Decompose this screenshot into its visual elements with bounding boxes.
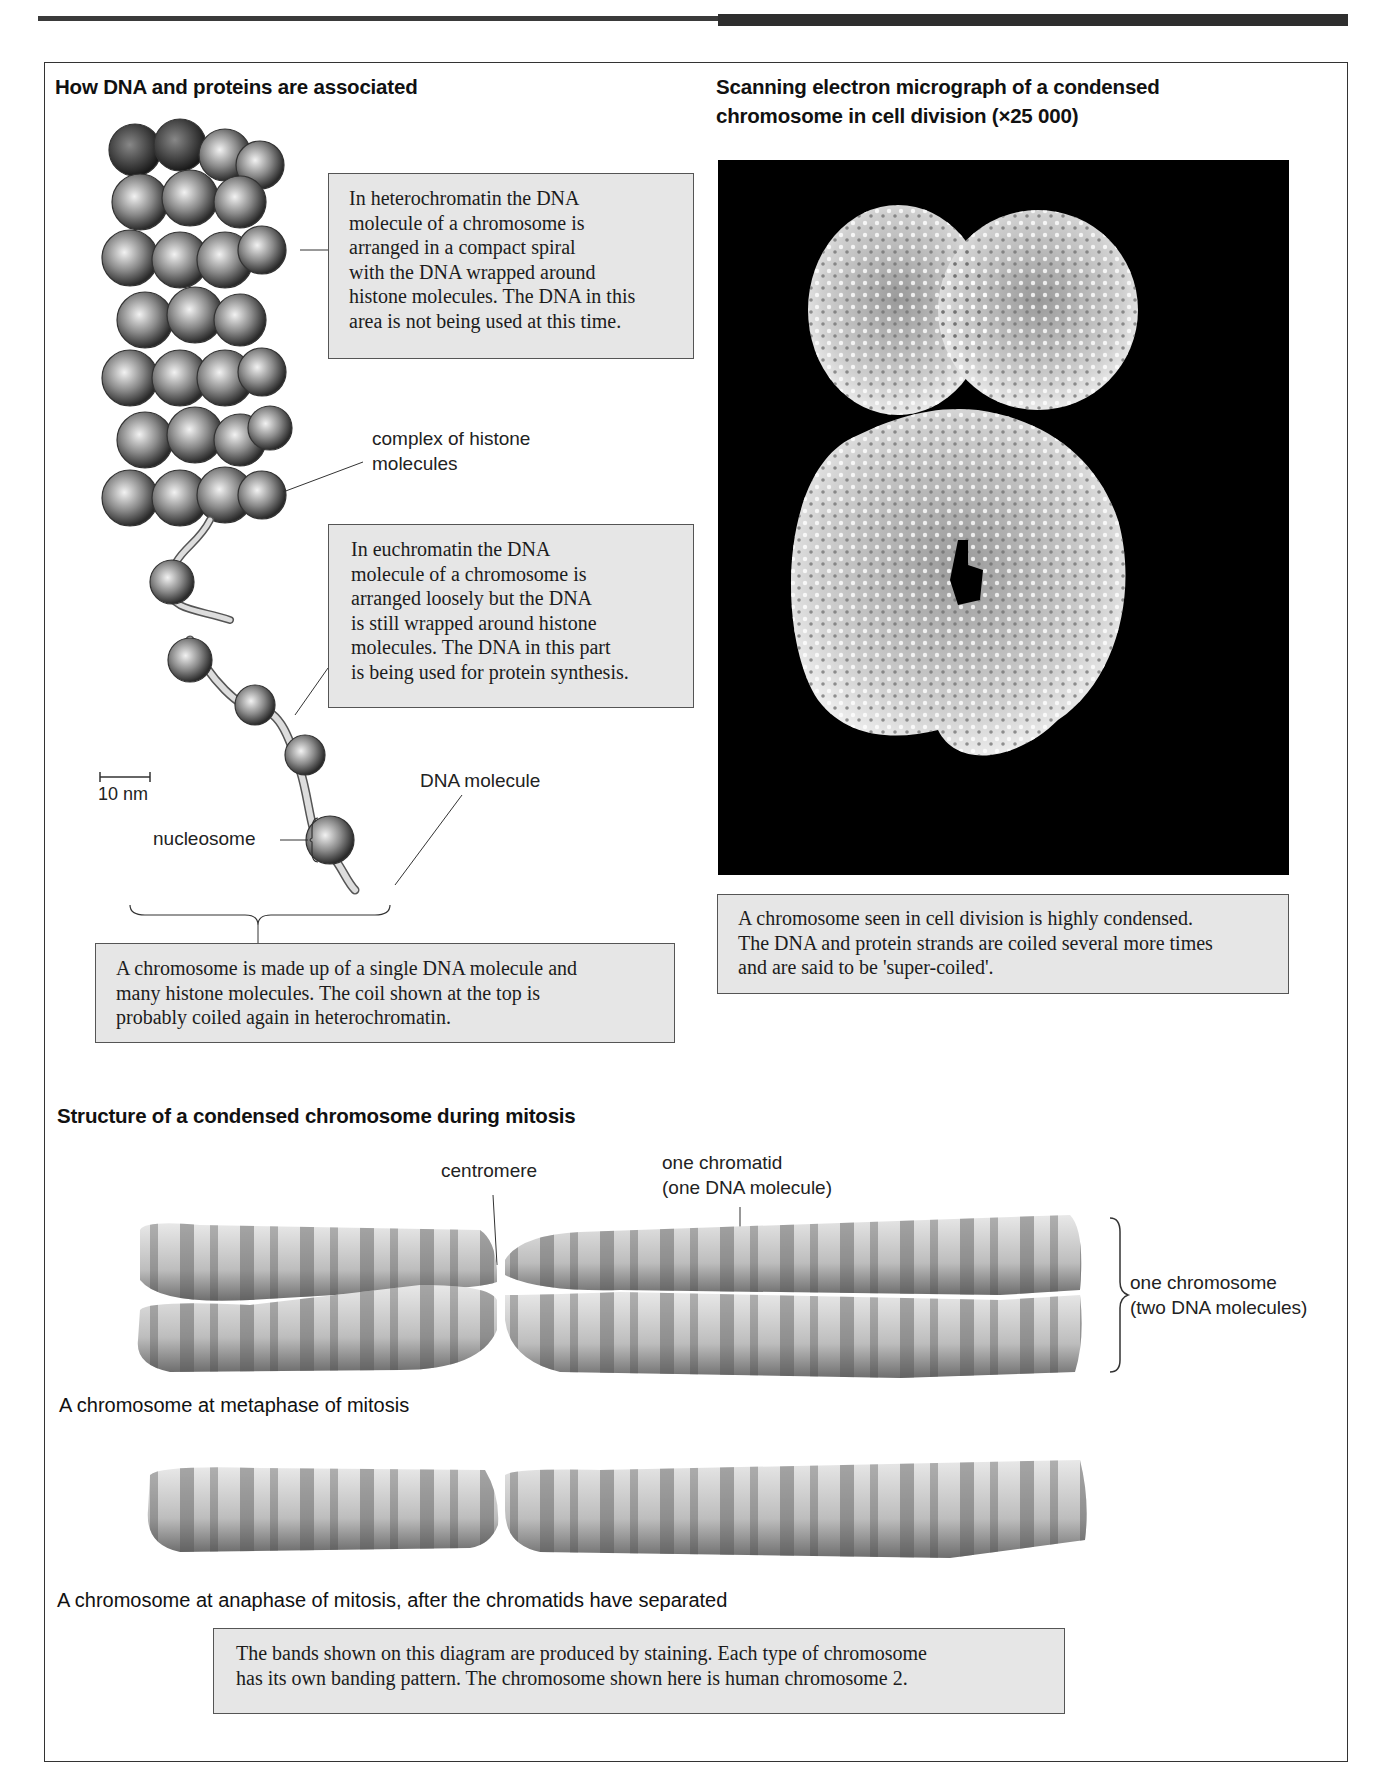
banding-info-text: The bands shown on this diagram are prod…	[236, 1641, 1042, 1690]
metaphase-chromosome-illustration	[0, 0, 1389, 1779]
banding-info-box: The bands shown on this diagram are prod…	[213, 1628, 1065, 1714]
one-chromosome-label: one chromosome (two DNA molecules)	[1130, 1270, 1307, 1320]
anaphase-caption: A chromosome at anaphase of mitosis, aft…	[57, 1589, 727, 1612]
metaphase-caption: A chromosome at metaphase of mitosis	[59, 1394, 409, 1417]
